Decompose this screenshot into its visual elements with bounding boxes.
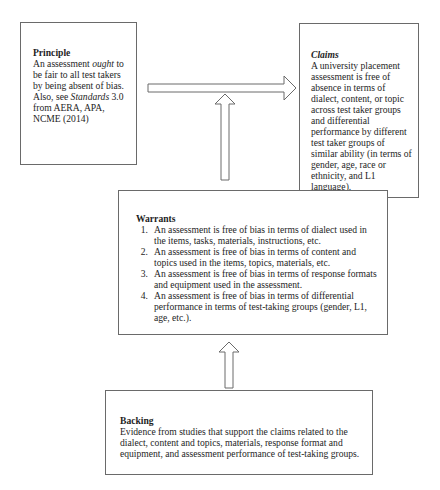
warrant-number: 2. <box>136 246 148 257</box>
warrant-item: 3. An assessment is free of bias in term… <box>136 268 377 290</box>
warrants-title: Warrants <box>136 213 377 224</box>
warrant-number: 4. <box>136 290 148 301</box>
arrow-warrants-up <box>215 94 235 180</box>
warrant-item: 2. An assessment is free of bias in term… <box>136 246 377 268</box>
warrants-list: 1. An assessment is free of bias in term… <box>136 224 377 323</box>
warrant-number: 3. <box>136 268 148 279</box>
warrant-text: An assessment is free of bias in terms o… <box>154 268 377 290</box>
warrant-item: 4. An assessment is free of bias in term… <box>136 290 377 323</box>
warrant-text: An assessment is free of bias in terms o… <box>154 224 367 246</box>
warrant-text: An assessment is free of bias in terms o… <box>154 290 367 323</box>
warrant-item: 1. An assessment is free of bias in term… <box>136 224 377 246</box>
warrant-text: An assessment is free of bias in terms o… <box>154 246 356 268</box>
arrow-backing-to-warrants <box>219 342 239 388</box>
warrant-number: 1. <box>136 224 148 235</box>
warrants-box: Warrants 1. An assessment is free of bia… <box>118 190 388 335</box>
